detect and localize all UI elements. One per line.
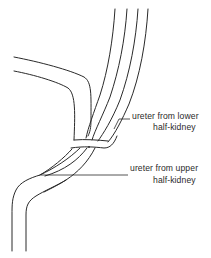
junction-band-bottom bbox=[71, 136, 117, 148]
lower-tube-right bbox=[26, 180, 66, 251]
junction-dot bbox=[88, 146, 90, 148]
lower-strand-4 bbox=[44, 148, 95, 192]
left-tube-outer bbox=[14, 57, 91, 136]
label-lower-line1: ureter from lower bbox=[132, 111, 199, 122]
lower-strand-3 bbox=[40, 149, 72, 175]
leader-lower bbox=[114, 119, 130, 129]
left-tube-inner bbox=[14, 71, 75, 140]
label-upper-line2: half-kidney bbox=[153, 175, 196, 186]
junction-band-top bbox=[74, 140, 108, 141]
label-lower-line2: half-kidney bbox=[153, 122, 196, 133]
lower-strand-2 bbox=[45, 148, 87, 176]
label-upper-line1: ureter from upper bbox=[130, 163, 198, 174]
